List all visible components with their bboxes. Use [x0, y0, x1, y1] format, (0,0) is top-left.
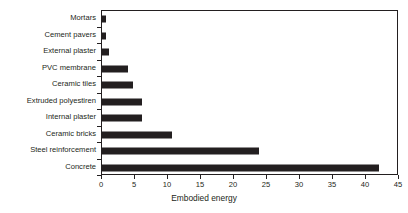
- bar-row: [102, 61, 397, 78]
- bar: [102, 82, 133, 89]
- bar: [102, 148, 259, 155]
- x-tick: [398, 175, 399, 179]
- category-label: Ceramic bricks: [46, 130, 96, 138]
- category-label: Concrete: [65, 163, 96, 171]
- bar-row: [102, 127, 397, 144]
- bar: [102, 131, 172, 138]
- bar: [102, 115, 142, 122]
- x-tick-label: 40: [361, 181, 369, 189]
- bar: [102, 98, 142, 105]
- category-label: Extruded polyestiren: [27, 97, 96, 105]
- bar-row: [102, 11, 397, 28]
- plot-area: [101, 10, 398, 175]
- x-tick-label: 20: [229, 181, 237, 189]
- bar-row: [102, 77, 397, 94]
- x-tick: [134, 175, 135, 179]
- bar: [102, 65, 128, 72]
- bar: [102, 32, 106, 39]
- category-label: Ceramic tiles: [52, 80, 96, 88]
- x-tick-label: 45: [394, 181, 402, 189]
- bar-row: [102, 143, 397, 160]
- x-tick-label: 15: [196, 181, 204, 189]
- bar: [102, 49, 109, 56]
- x-tick-label: 10: [163, 181, 171, 189]
- x-tick: [200, 175, 201, 179]
- bar-row: [102, 94, 397, 111]
- category-label: External plaster: [43, 47, 96, 55]
- bar-row: [102, 44, 397, 61]
- bar-row: [102, 110, 397, 127]
- category-label: Internal plaster: [46, 113, 96, 121]
- x-tick-label: 30: [295, 181, 303, 189]
- embodied-energy-bar-chart: MortarsCement paversExternal plasterPVC …: [0, 0, 408, 213]
- category-label: PVC membrane: [42, 64, 96, 72]
- x-tick: [299, 175, 300, 179]
- x-tick: [101, 175, 102, 179]
- category-label: Steel reinforcement: [30, 146, 96, 154]
- x-tick: [167, 175, 168, 179]
- x-tick-label: 0: [99, 181, 103, 189]
- bar: [102, 16, 106, 23]
- x-tick-label: 25: [262, 181, 270, 189]
- x-axis-title: Embodied energy: [0, 194, 408, 202]
- x-tick: [266, 175, 267, 179]
- x-tick: [332, 175, 333, 179]
- category-label: Cement pavers: [45, 31, 97, 39]
- x-tick-label: 5: [132, 181, 136, 189]
- x-tick: [365, 175, 366, 179]
- x-tick: [233, 175, 234, 179]
- bar: [102, 164, 379, 171]
- bar-row: [102, 28, 397, 45]
- x-tick-label: 35: [328, 181, 336, 189]
- bar-row: [102, 160, 397, 177]
- category-label: Mortars: [70, 14, 96, 22]
